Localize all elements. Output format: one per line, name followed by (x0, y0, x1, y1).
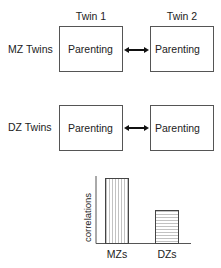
mz-double-arrow-icon (124, 47, 149, 53)
bar-mzs (106, 179, 129, 244)
diagram-graphics (0, 0, 221, 268)
chart-category-dzs: DZs (147, 248, 187, 260)
dz-double-arrow-icon (124, 125, 149, 131)
bar-dzs (156, 211, 179, 244)
chart-category-mzs: MZs (97, 248, 137, 260)
chart-y-axis-label: correlations (82, 193, 93, 242)
